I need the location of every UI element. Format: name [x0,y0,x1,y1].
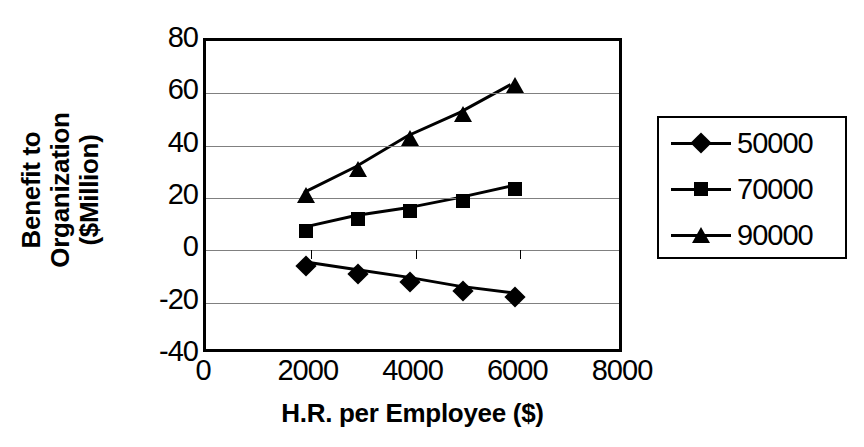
x-tick-mark [416,250,417,259]
x-tick-label: 8000 [592,356,653,385]
x-tick-mark [520,250,521,259]
x-tick-label: 0 [195,356,210,385]
y-tick-label: 0 [112,232,198,261]
legend-item-50000[interactable]: 50000 [659,120,845,166]
plot-area [203,38,622,352]
x-axis-title: H.R. per Employee ($) [203,398,622,429]
x-tick-label: 2000 [277,356,338,385]
legend-item-90000[interactable]: 90000 [659,212,845,258]
y-tick-label: -20 [112,285,198,314]
grid-line [206,198,619,199]
y-axis-title: Benefit to Organization ($Million) [6,40,116,340]
legend-key [669,220,733,250]
grid-line [206,146,619,147]
y-tick-label: 20 [112,180,198,209]
y-axis-title-line-3: ($Million) [76,112,105,267]
y-tick-label: 60 [112,75,198,104]
legend-item-70000[interactable]: 70000 [659,166,845,212]
legend-label: 70000 [737,175,813,204]
legend-label: 50000 [737,129,813,158]
series-line-50000 [304,262,511,293]
legend-key-line [671,142,731,145]
chart-figure: Benefit to Organization ($Million) 80604… [0,0,864,447]
x-tick-label: 6000 [487,356,548,385]
legend-key-line [671,188,731,191]
y-axis-title-line-1: Benefit to [17,112,46,267]
x-tick-label: 4000 [382,356,443,385]
y-axis-title-line-2a: Organization [45,112,75,267]
grid-line [206,93,619,94]
chart-legend: 500007000090000 [657,116,847,259]
series-line-90000 [304,85,511,193]
x-axis-tick-labels: 02000400060008000 [0,356,864,396]
legend-key-line [671,234,731,237]
y-axis-title-line-2: Organization [46,112,75,267]
series-line-70000 [304,186,511,227]
grid-line [206,303,619,304]
legend-key [669,174,733,204]
y-tick-label: 40 [112,128,198,157]
legend-label: 90000 [737,221,813,250]
legend-key [669,128,733,158]
y-tick-label: 80 [112,23,198,52]
grid-line [206,250,619,251]
x-tick-mark [311,250,312,259]
